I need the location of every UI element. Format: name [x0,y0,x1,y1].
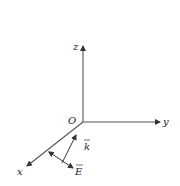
k-vector-label: k [84,141,90,152]
e-vector-label: E [74,166,83,177]
diagram-svg: z O y x k E [0,0,180,186]
y-axis-label: y [162,116,169,127]
z-axis-label: z [72,41,79,52]
x-axis [27,122,83,166]
coordinate-diagram: z O y x k E [0,0,180,186]
k-vector [62,135,76,163]
x-axis-label: x [17,166,23,177]
e-vector [52,154,73,168]
origin-label: O [68,115,76,126]
